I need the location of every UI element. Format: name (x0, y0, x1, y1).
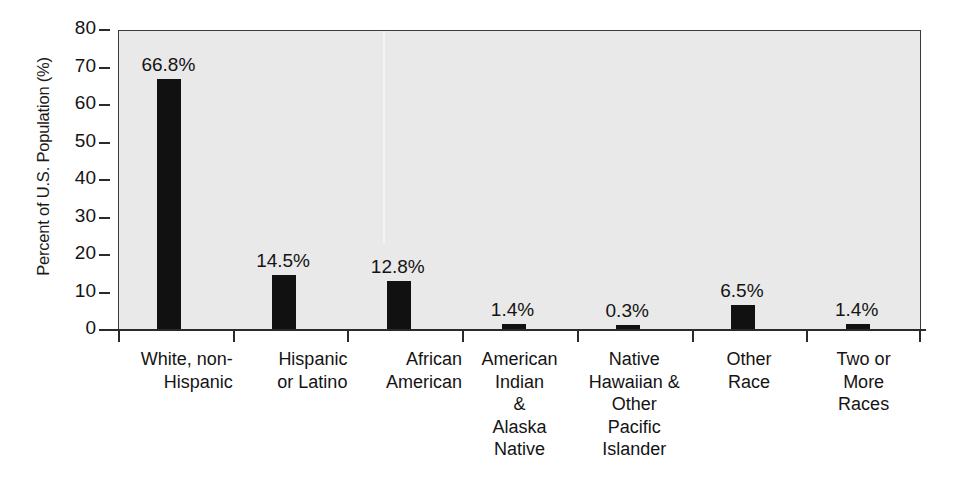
bar[interactable] (387, 281, 411, 329)
x-axis-category-label-line: & (462, 393, 577, 416)
x-axis-tick-mark (919, 331, 921, 342)
y-axis-tick-mark (99, 67, 110, 69)
x-axis-tick-mark (347, 331, 349, 342)
x-axis-tick-mark (462, 331, 464, 342)
x-axis-category-label-line: Hawaiian & (577, 371, 692, 394)
x-axis-category-label-line: or Latino (233, 371, 348, 394)
x-axis-tick-mark (692, 331, 694, 342)
x-axis-category-label: OtherRace (692, 348, 807, 393)
y-axis-tick-mark (99, 217, 110, 219)
y-axis-tick-label: 30 (56, 206, 96, 225)
y-axis-tick-label: 60 (56, 93, 96, 112)
y-axis-tick-mark (99, 292, 110, 294)
bar[interactable] (157, 79, 181, 330)
y-axis-tick-label: 0 (56, 318, 96, 337)
bar-chart: Percent of U.S. Population (%) 807060504… (0, 0, 963, 483)
y-axis-tick-label: 80 (56, 18, 96, 37)
x-axis-tick-mark (806, 331, 808, 342)
x-axis-category-label: AfricanAmerican (347, 348, 462, 393)
x-axis-category-label-line: Other (577, 393, 692, 416)
x-axis-category-label-line: African (347, 348, 462, 371)
scan-artifact (383, 31, 385, 243)
x-axis-tick-mark (233, 331, 235, 342)
x-axis-category-label: Two orMoreRaces (806, 348, 921, 416)
x-axis-category-label: Hispanicor Latino (233, 348, 348, 393)
x-axis-category-label-line: Two or (806, 348, 921, 371)
x-axis-category-label: AmericanIndian&AlaskaNative (462, 348, 577, 461)
x-axis-category-label-line: Native (577, 348, 692, 371)
x-axis-tick-mark (118, 331, 120, 342)
x-axis-category-label-line: Pacific (577, 416, 692, 439)
x-axis-category-label-line: Hispanic (118, 371, 233, 394)
y-axis-title: Percent of U.S. Population (%) (34, 2, 53, 332)
x-axis-category-label-line: Indian (462, 371, 577, 394)
x-axis-category-label-line: Islander (577, 438, 692, 461)
y-axis-tick-mark (99, 142, 110, 144)
y-axis-tick-mark (99, 29, 110, 31)
y-axis-tick-label: 10 (56, 281, 96, 300)
y-axis-tick-label: 50 (56, 131, 96, 150)
bar[interactable] (731, 305, 755, 329)
y-axis-tick-label: 20 (56, 243, 96, 262)
bar[interactable] (272, 275, 296, 329)
x-axis-category-group: White, non-HispanicHispanicor LatinoAfri… (118, 348, 921, 478)
x-axis-category-label-line: White, non- (118, 348, 233, 371)
plot-area (118, 30, 921, 330)
x-axis-category-label: NativeHawaiian &OtherPacificIslander (577, 348, 692, 461)
y-axis-tick-group: 80706050403020100 (58, 30, 110, 330)
x-axis-category-label-line: Hispanic (233, 348, 348, 371)
x-axis-category-label-line: American (462, 348, 577, 371)
y-axis-tick-mark (99, 104, 110, 106)
x-axis-category-label-line: Alaska (462, 416, 577, 439)
y-axis-tick-mark (99, 179, 110, 181)
x-axis-category-label-line: More (806, 371, 921, 394)
x-axis-tick-group (118, 331, 921, 343)
x-axis-tick-mark (577, 331, 579, 342)
x-axis-category-label-line: Other (692, 348, 807, 371)
y-axis-tick-mark (99, 254, 110, 256)
y-axis-tick-label: 40 (56, 168, 96, 187)
x-axis-category-label-line: Race (692, 371, 807, 394)
x-axis-category-label: White, non-Hispanic (118, 348, 233, 393)
x-axis-category-label-line: American (347, 371, 462, 394)
x-axis-category-label-line: Races (806, 393, 921, 416)
x-axis-category-label-line: Native (462, 438, 577, 461)
y-axis-tick-label: 70 (56, 56, 96, 75)
